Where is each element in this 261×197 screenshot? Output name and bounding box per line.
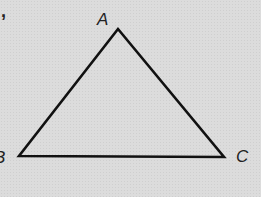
triangle-abc [0, 0, 261, 197]
triangle-outline [19, 29, 224, 157]
vertex-label-b: B [0, 149, 5, 166]
diagram-canvas: , A B C [0, 0, 261, 197]
vertex-label-c: C [236, 148, 248, 165]
vertex-label-a: A [97, 11, 108, 28]
